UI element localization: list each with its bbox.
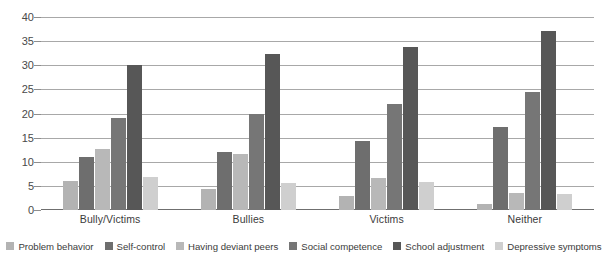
bar-slot bbox=[94, 17, 110, 210]
y-axis-tick-mark bbox=[34, 114, 41, 115]
bar-slot bbox=[232, 17, 248, 210]
bar-group bbox=[456, 17, 594, 210]
bar[interactable] bbox=[509, 193, 524, 210]
bar-slot bbox=[110, 17, 126, 210]
legend-item[interactable]: Self-control bbox=[105, 241, 166, 252]
bar-slot bbox=[509, 17, 525, 210]
bar-slot bbox=[216, 17, 232, 210]
bar-group bbox=[318, 17, 456, 210]
bar[interactable] bbox=[249, 114, 264, 211]
legend-swatch bbox=[6, 242, 14, 250]
bar-slot bbox=[525, 17, 541, 210]
y-axis-tick-mark bbox=[34, 186, 41, 187]
y-axis-tick-label: 15 bbox=[4, 132, 34, 144]
bar[interactable] bbox=[355, 141, 370, 210]
category-label: Victims bbox=[318, 213, 456, 231]
y-axis-tick-label: 25 bbox=[4, 83, 34, 95]
bar-slot bbox=[248, 17, 264, 210]
y-axis-tick-mark bbox=[34, 89, 41, 90]
y-axis-tick-label: 35 bbox=[4, 35, 34, 47]
legend-label: Having deviant peers bbox=[188, 241, 278, 252]
bar-slot bbox=[280, 17, 296, 210]
bar[interactable] bbox=[557, 194, 572, 210]
bar[interactable] bbox=[111, 118, 126, 210]
grouped-bar-chart: 0510152025303540 Bully/VictimsBulliesVic… bbox=[0, 0, 608, 260]
legend-swatch bbox=[105, 242, 113, 250]
bar[interactable] bbox=[281, 183, 296, 210]
bar-slot bbox=[78, 17, 94, 210]
bar[interactable] bbox=[493, 127, 508, 210]
legend-item[interactable]: Problem behavior bbox=[6, 241, 93, 252]
bar-slot bbox=[387, 17, 403, 210]
legend-label: Social competence bbox=[301, 241, 382, 252]
y-axis-tick-mark bbox=[34, 65, 41, 66]
bar-slot bbox=[419, 17, 435, 210]
bar-slot bbox=[126, 17, 142, 210]
bar[interactable] bbox=[387, 104, 402, 210]
y-axis-tick-mark bbox=[34, 17, 41, 18]
y-axis-tick-label: 30 bbox=[4, 59, 34, 71]
legend-swatch bbox=[495, 242, 503, 250]
legend-label: Self-control bbox=[117, 241, 166, 252]
legend-swatch bbox=[289, 242, 297, 250]
bar-group bbox=[179, 17, 317, 210]
bar-slot bbox=[477, 17, 493, 210]
legend-item[interactable]: Social competence bbox=[289, 241, 382, 252]
category-label: Bullies bbox=[179, 213, 317, 231]
legend-item[interactable]: Having deviant peers bbox=[176, 241, 278, 252]
bar[interactable] bbox=[525, 92, 540, 210]
y-axis-tick-mark bbox=[34, 210, 41, 211]
bar[interactable] bbox=[265, 54, 280, 210]
y-axis-tick-label: 40 bbox=[4, 11, 34, 23]
bar[interactable] bbox=[477, 204, 492, 210]
category-label: Bully/Victims bbox=[41, 213, 179, 231]
bar-slot bbox=[541, 17, 557, 210]
bar-slot bbox=[557, 17, 573, 210]
y-axis-tick-mark bbox=[34, 162, 41, 163]
category-axis-labels: Bully/VictimsBulliesVictimsNeither bbox=[41, 213, 594, 231]
bar[interactable] bbox=[339, 196, 354, 210]
bar-groups bbox=[41, 17, 594, 210]
legend-item[interactable]: School adjustment bbox=[393, 241, 484, 252]
bar-slot bbox=[493, 17, 509, 210]
bar[interactable] bbox=[371, 178, 386, 210]
y-axis-tick-mark bbox=[34, 41, 41, 42]
category-label: Neither bbox=[456, 213, 594, 231]
y-axis-tick-label: 0 bbox=[4, 204, 34, 216]
bar-slot bbox=[200, 17, 216, 210]
y-axis-tick-label: 10 bbox=[4, 156, 34, 168]
bar[interactable] bbox=[233, 154, 248, 210]
bar-slot bbox=[371, 17, 387, 210]
bar[interactable] bbox=[403, 47, 418, 210]
legend-label: Depressive symptoms bbox=[507, 241, 601, 252]
bar[interactable] bbox=[127, 65, 142, 210]
legend-label: School adjustment bbox=[405, 241, 484, 252]
bar[interactable] bbox=[143, 177, 158, 210]
legend-label: Problem behavior bbox=[18, 241, 93, 252]
bar[interactable] bbox=[79, 157, 94, 210]
bar[interactable] bbox=[541, 31, 556, 210]
bar-slot bbox=[403, 17, 419, 210]
bar[interactable] bbox=[217, 152, 232, 210]
chart-legend: Problem behaviorSelf-controlHaving devia… bbox=[0, 237, 608, 255]
bar[interactable] bbox=[419, 182, 434, 210]
y-axis-tick-label: 20 bbox=[4, 108, 34, 120]
legend-swatch bbox=[176, 242, 184, 250]
bar-slot bbox=[355, 17, 371, 210]
y-axis-tick-label: 5 bbox=[4, 180, 34, 192]
bar-slot bbox=[142, 17, 158, 210]
bar[interactable] bbox=[201, 189, 216, 210]
bar-slot bbox=[339, 17, 355, 210]
legend-swatch bbox=[393, 242, 401, 250]
legend-item[interactable]: Depressive symptoms bbox=[495, 241, 601, 252]
bar-slot bbox=[264, 17, 280, 210]
bar-slot bbox=[62, 17, 78, 210]
bar[interactable] bbox=[95, 149, 110, 210]
y-axis-tick-mark bbox=[34, 138, 41, 139]
bar-group bbox=[41, 17, 179, 210]
bar[interactable] bbox=[63, 181, 78, 210]
